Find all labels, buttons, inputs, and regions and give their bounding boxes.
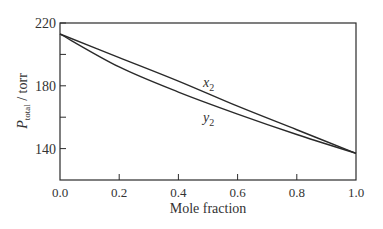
x-axis-ticks: 0.00.20.40.60.81.0 [52, 174, 364, 200]
series-line-x2 [60, 34, 356, 153]
y-axis-ticks: 140180220 [35, 16, 66, 157]
x-tick-label: 0.4 [170, 185, 187, 200]
y-tick-label: 140 [35, 142, 56, 157]
plot-frame [60, 23, 356, 180]
chart: 140180220 0.00.20.40.60.81.0 x2y2 Mole f… [0, 0, 383, 229]
series-label-x2: x2 [202, 75, 214, 93]
x-tick-label: 0.2 [111, 185, 127, 200]
x-tick-label: 1.0 [348, 185, 364, 200]
y-tick-label: 220 [35, 16, 56, 31]
y-axis-label: Ptotal / torr [15, 73, 32, 130]
data-lines [60, 34, 356, 153]
x-axis-label: Mole fraction [170, 201, 247, 216]
y-tick-label: 180 [35, 79, 56, 94]
series-label-y2: y2 [201, 110, 214, 128]
x-tick-label: 0.8 [289, 185, 305, 200]
x-tick-label: 0.0 [52, 185, 68, 200]
x-tick-label: 0.6 [229, 185, 246, 200]
